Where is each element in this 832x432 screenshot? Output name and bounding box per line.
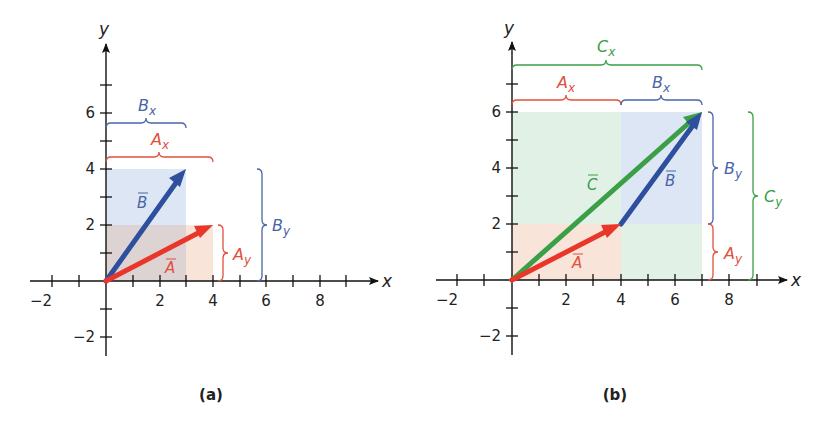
brace-ay: [218, 225, 228, 281]
ax-label: Ax: [150, 130, 170, 152]
y-tick-label: 2: [491, 215, 501, 233]
x-tick-label: 8: [315, 292, 325, 310]
panel-a-caption: (a): [199, 386, 223, 404]
bx-label: Bx: [138, 96, 157, 118]
brace-ax: [512, 95, 621, 105]
y-tick-label: 6: [491, 103, 501, 121]
y-tick-label: 4: [491, 159, 501, 177]
ax-label: Ax: [556, 73, 576, 95]
x-tick-label: −2: [30, 292, 52, 310]
y-tick-label: −2: [73, 328, 95, 346]
x-tick-label: −2: [436, 291, 458, 309]
x-tick-label: 8: [724, 291, 734, 309]
x-axis-label: x: [790, 270, 802, 290]
vector-b-label: B: [665, 172, 675, 190]
panel-b-caption: (b): [603, 386, 627, 404]
by-label: By: [724, 159, 743, 181]
vector-addition-figure: −2 2 4 6 8 x 6 4 2 −2 y: [0, 0, 832, 432]
brace-by: [257, 169, 267, 281]
ay-label: Ay: [723, 244, 743, 266]
y-axis-label: y: [503, 18, 515, 38]
y-tick-label: 4: [85, 160, 95, 178]
brace-cx: [512, 60, 702, 70]
x-tick-label: 2: [155, 292, 165, 310]
brace-bx: [621, 95, 702, 105]
upper-left-region: [512, 112, 621, 224]
cy-label: Cy: [764, 187, 783, 209]
vector-a-label: A: [571, 254, 582, 272]
panel-b: −2 2 4 6 8 x 6 4 2 −2 y: [436, 18, 802, 404]
ay-label: Ay: [232, 245, 252, 267]
vector-c-label: C: [587, 176, 598, 194]
brace-cy: [748, 112, 758, 280]
by-label: By: [272, 216, 291, 238]
y-tick-label: 6: [85, 104, 95, 122]
panel-a: −2 2 4 6 8 x 6 4 2 −2 y: [30, 19, 393, 404]
lower-right-region: [621, 224, 702, 280]
x-tick-label: 6: [261, 292, 271, 310]
y-tick-label: 2: [85, 216, 95, 234]
brace-ay: [708, 224, 718, 280]
brace-ax: [106, 152, 213, 162]
x-axis-label: x: [381, 271, 393, 291]
brace-by: [708, 112, 718, 224]
brace-bx: [106, 118, 186, 128]
vector-b-label: B: [137, 194, 147, 212]
y-axis: 6 4 2 −2 y: [73, 19, 112, 356]
x-tick-label: 4: [616, 291, 626, 309]
y-tick-label: −2: [479, 327, 501, 345]
y-axis-label: y: [98, 19, 110, 39]
x-tick-label: 2: [561, 291, 571, 309]
x-tick-label: 6: [670, 291, 680, 309]
vector-a-label: A: [164, 259, 175, 277]
x-tick-label: 4: [208, 292, 218, 310]
cx-label: Cx: [597, 37, 616, 59]
bx-label: Bx: [652, 73, 671, 95]
